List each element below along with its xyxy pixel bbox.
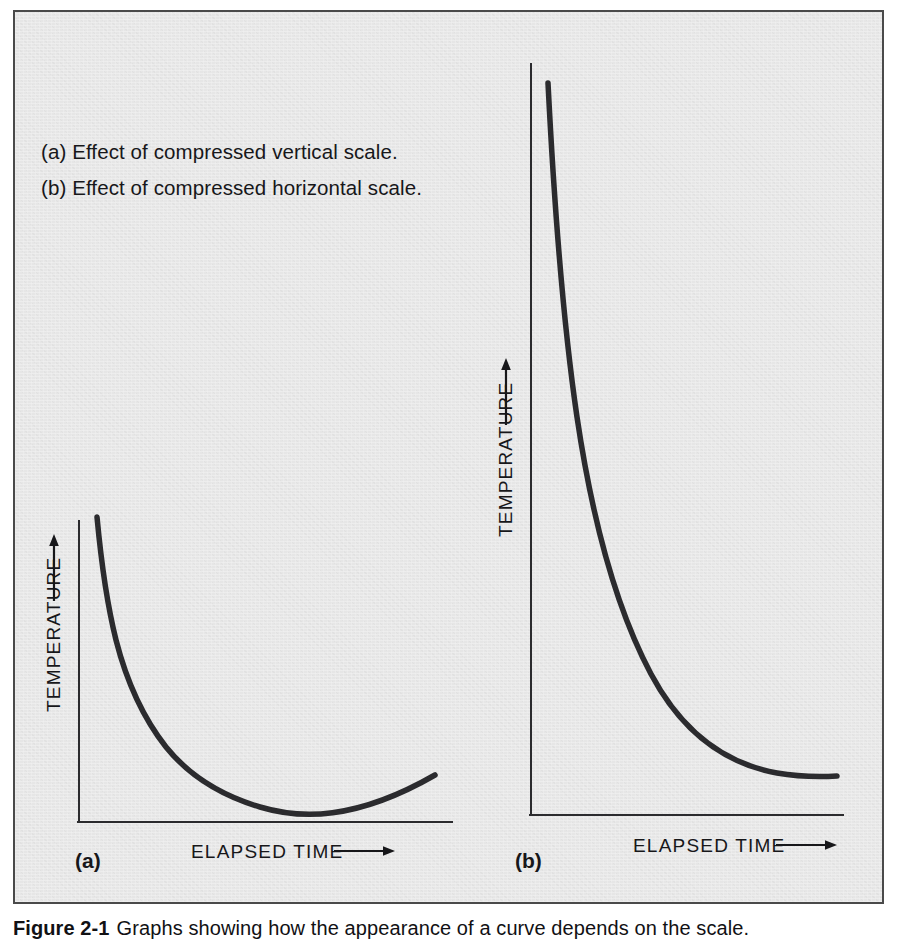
figure-panel: (a) Effect of compressed vertical scale.… [13,10,884,904]
figure-caption: Figure 2-1Graphs showing how the appeara… [13,917,749,940]
chart-b: TEMPERATURE ELAPSED TIME (b) [15,12,882,902]
chart-b-x-axis-label-group: ELAPSED TIME [633,835,837,856]
chart-b-y-axis-arrow-head [501,358,511,370]
figure-caption-number: Figure 2-1 [13,917,110,939]
chart-b-x-axis-arrow-head [825,840,837,850]
chart-b-curve [548,83,837,777]
chart-b-panel-label: (b) [515,849,542,872]
chart-b-y-axis-label-group: TEMPERATURE [495,358,516,537]
figure-caption-text: Graphs showing how the appearance of a c… [117,917,750,939]
chart-b-x-axis-label: ELAPSED TIME [633,835,785,856]
